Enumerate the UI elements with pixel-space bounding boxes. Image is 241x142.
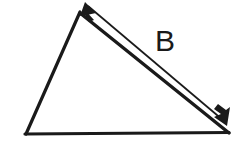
vector-b-arrowhead-start <box>80 2 96 22</box>
triangle-left-edge <box>26 12 80 134</box>
vector-b-label: B <box>155 24 175 57</box>
triangle-bottom-edge <box>25 133 229 135</box>
vector-diagram-figure: B <box>0 0 241 142</box>
vector-b-arrow <box>80 2 230 126</box>
triangle-shape <box>25 12 229 134</box>
diagram-canvas: B <box>0 0 241 142</box>
